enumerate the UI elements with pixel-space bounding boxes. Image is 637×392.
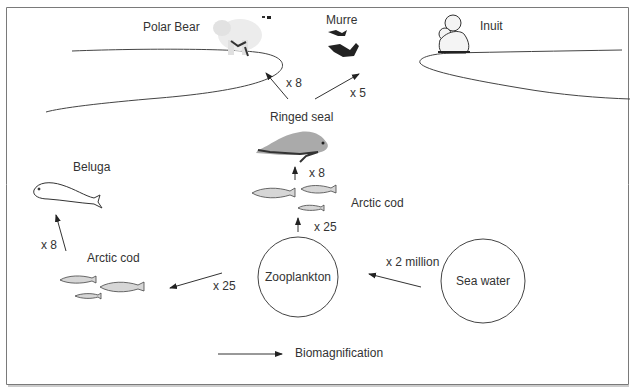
edge-label-seal-murre: x 5 (350, 86, 366, 100)
edge-label-cod-seal: x 8 (309, 166, 325, 180)
label-beluga: Beluga (73, 160, 110, 174)
edge-label-zoo-cod: x 25 (314, 220, 337, 234)
edge-label-zoo-cod-left: x 25 (213, 279, 236, 293)
label-arctic-cod-center: Arctic cod (351, 196, 404, 210)
edge-label-seal-bear: x 8 (286, 76, 302, 90)
label-zooplankton: Zooplankton (258, 270, 338, 284)
label-ringed-seal: Ringed seal (270, 110, 333, 124)
label-murre: Murre (326, 13, 357, 27)
label-polar-bear: Polar Bear (143, 20, 200, 34)
edge-label-cod-beluga: x 8 (41, 238, 57, 252)
food-web-drawing (0, 0, 637, 392)
legend-label: Biomagnification (295, 346, 383, 360)
label-inuit: Inuit (480, 19, 503, 33)
label-arctic-cod-left: Arctic cod (87, 251, 140, 265)
label-sea-water: Sea water (443, 274, 523, 288)
edge-label-water-zoo: x 2 million (386, 255, 439, 269)
